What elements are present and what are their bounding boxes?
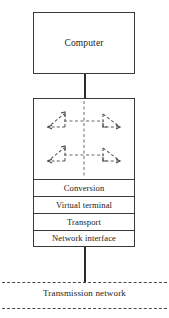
connector-stack-to-network: [84, 247, 86, 282]
transmission-network-top-boundary: [2, 282, 167, 283]
connector-computer-to-stack: [84, 74, 86, 98]
arrowhead-down-right-row1: [103, 123, 120, 129]
layer-row: Virtual terminal: [33, 196, 135, 213]
layer-label-network-interface: Network interface: [52, 234, 116, 243]
transmission-network-label: Transmission network: [0, 288, 169, 298]
arrow-up-left-row1: [48, 114, 65, 127]
arrow-down-right-row1: [103, 114, 120, 127]
arrow-down-right-row2: [103, 148, 120, 161]
protocol-stack-diagram: Computer: [0, 0, 169, 318]
layer-row: Network interface: [33, 230, 135, 247]
layer-label-transport: Transport: [67, 218, 101, 227]
arrowhead-down-right-row2: [103, 157, 120, 163]
computer-box: Computer: [33, 12, 135, 74]
layer-row: Conversion: [33, 179, 135, 196]
arrow-up-left-row2: [48, 148, 65, 161]
transmission-network-bottom-boundary: [2, 308, 167, 309]
layer-label-virtual-terminal: Virtual terminal: [56, 201, 112, 210]
layer-row: Transport: [33, 213, 135, 230]
flow-arrows-region: [34, 99, 134, 179]
computer-label: Computer: [64, 38, 103, 48]
layer-label-conversion: Conversion: [64, 184, 105, 193]
